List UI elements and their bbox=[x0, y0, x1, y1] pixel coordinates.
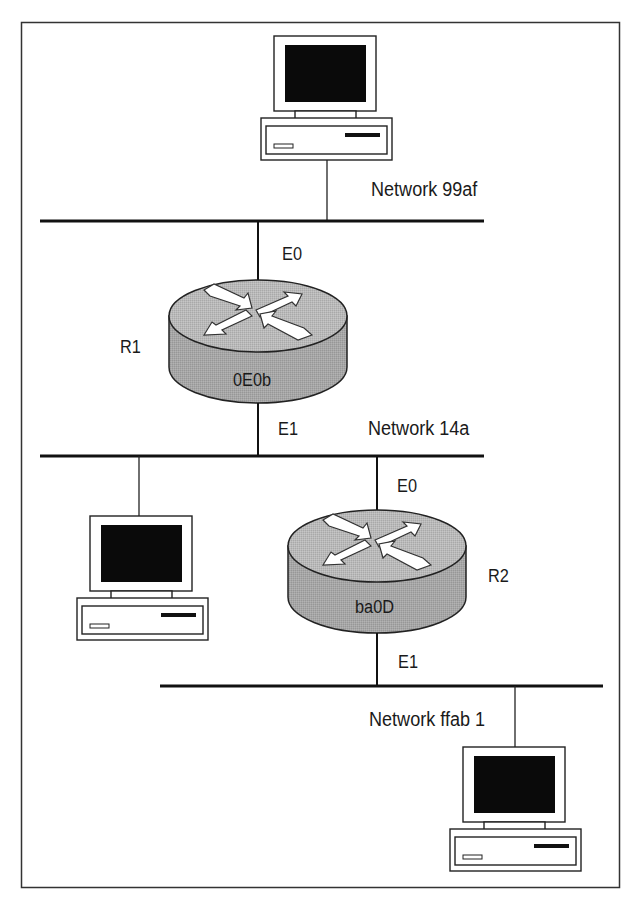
r1-e1-label: E1 bbox=[278, 418, 298, 439]
host-left bbox=[77, 456, 208, 640]
router-r1-name: R1 bbox=[120, 336, 141, 357]
network-99af-label: Network 99af bbox=[371, 177, 478, 201]
desktop-computer-icon bbox=[450, 747, 581, 871]
r1-e0-label: E0 bbox=[282, 243, 302, 264]
router-r1: 0E0b bbox=[169, 280, 347, 403]
desktop-computer-icon bbox=[77, 516, 208, 640]
desktop-computer-icon bbox=[261, 36, 392, 160]
router-r2-address: ba0D bbox=[355, 596, 394, 617]
network-topology-diagram: Network 99af E0 0E0b R1 E1 Network 14a E… bbox=[0, 0, 643, 905]
network-14a-label: Network 14a bbox=[368, 416, 469, 440]
r2-e0-label: E0 bbox=[397, 475, 417, 496]
router-r1-address: 0E0b bbox=[233, 369, 271, 390]
router-r2-name: R2 bbox=[488, 565, 509, 586]
router-r2: ba0D bbox=[288, 510, 466, 633]
network-ffab1-label: Network ffab 1 bbox=[369, 707, 485, 731]
r2-e1-label: E1 bbox=[398, 651, 418, 672]
